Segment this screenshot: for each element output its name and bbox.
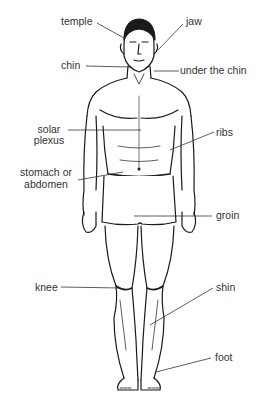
label-ribs: ribs (216, 127, 233, 138)
label-under-the-chin: under the chin (180, 65, 247, 76)
label-jaw: jaw (186, 16, 202, 27)
label-temple: temple (61, 16, 93, 27)
label-solar-plexus-line2: plexus (30, 135, 68, 146)
label-stomach-line1: stomach or (16, 167, 76, 178)
label-knee: knee (35, 282, 58, 293)
human-figure-illustration (0, 0, 267, 405)
body-parts-diagram: temple jaw chin under the chin solar ple… (0, 0, 267, 405)
label-chin: chin (61, 60, 80, 71)
label-stomach-line2: abdomen (16, 179, 76, 190)
label-foot: foot (215, 352, 233, 363)
label-groin: groin (216, 210, 239, 221)
label-shin: shin (216, 282, 235, 293)
